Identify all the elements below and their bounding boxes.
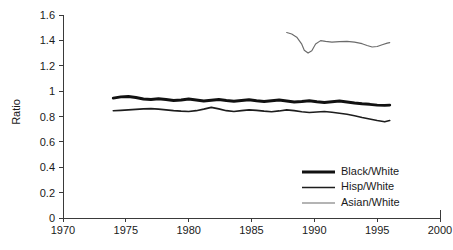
x-tick-label: 1980 [176, 224, 200, 236]
x-tick-label: 1975 [114, 224, 138, 236]
legend-label-asian-white: Asian/White [341, 196, 400, 208]
x-tick-label: 2000 [428, 224, 452, 236]
series-line-black-white [113, 96, 389, 105]
y-tick-label: 0 [49, 212, 55, 224]
legend-label-hisp-white: Hisp/White [341, 180, 394, 192]
y-tick-label: 1.6 [40, 9, 55, 21]
series-line-hisp-white [113, 107, 389, 121]
chart-container: 00.20.40.60.811.21.41.619701975198019851… [0, 0, 453, 250]
y-tick-label: 1.4 [40, 34, 55, 46]
y-tick-label: 0.2 [40, 187, 55, 199]
x-tick-label: 1985 [239, 224, 263, 236]
y-tick-label: 1.2 [40, 60, 55, 72]
x-tick-label: 1990 [302, 224, 326, 236]
series-line-asian-white [287, 33, 390, 54]
chart-series [113, 33, 389, 122]
y-tick-label: 1 [49, 85, 55, 97]
chart-legend: Black/WhiteHisp/WhiteAsian/White [302, 165, 400, 208]
y-axis-title: Ratio [10, 99, 22, 125]
y-tick-label: 0.8 [40, 111, 55, 123]
legend-label-black-white: Black/White [341, 165, 399, 177]
y-tick-label: 0.4 [40, 161, 55, 173]
ratio-line-chart: 00.20.40.60.811.21.41.619701975198019851… [0, 0, 453, 250]
x-tick-label: 1970 [51, 224, 75, 236]
x-tick-label: 1995 [365, 224, 389, 236]
y-tick-label: 0.6 [40, 136, 55, 148]
